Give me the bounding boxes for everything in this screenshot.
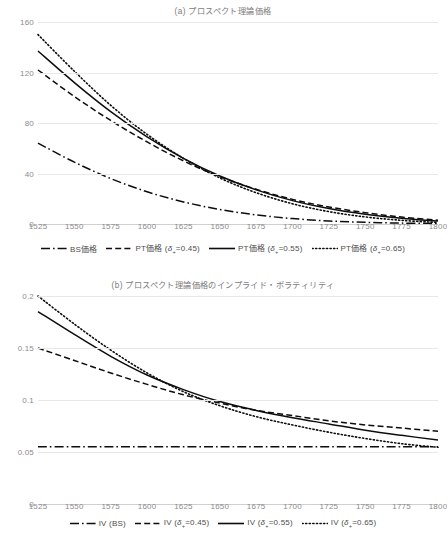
chart-a-plot: 04080120160 1525155015751600162516501675…	[0, 18, 446, 224]
gridline	[38, 296, 438, 297]
series-line	[38, 35, 438, 223]
x-tick-label: 1625	[174, 222, 193, 231]
legend-swatch-dashdot	[41, 244, 67, 253]
legend-item[interactable]: IV (δ+=0.65)	[302, 518, 376, 529]
legend-swatch-dashed	[106, 244, 132, 253]
y-tick-label: 0.2	[22, 292, 34, 301]
series-line	[38, 51, 438, 221]
x-tick-label: 1550	[65, 222, 84, 231]
x-tick-label: 1675	[247, 502, 266, 511]
x-tick-label: 1550	[65, 502, 84, 511]
chart-a-x-axis: 1525155015751600162516501675170017251750…	[38, 222, 438, 236]
legend-label: PT価格 (δ+=0.45)	[135, 242, 200, 255]
legend-swatch-dotted	[302, 519, 328, 528]
x-tick-label: 1575	[101, 222, 120, 231]
gridline	[38, 123, 438, 124]
x-tick-label: 1775	[392, 502, 411, 511]
legend-item[interactable]: IV (δ+=0.55)	[218, 518, 292, 529]
gridline	[38, 174, 438, 175]
y-tick-label: 40	[25, 169, 34, 178]
y-tick-label: 160	[20, 18, 34, 27]
chart-b-x-axis: 1525155015751600162516501675170017251750…	[38, 502, 438, 516]
chart-b-legend: IV (BS)IV (δ+=0.45)IV (δ+=0.55)IV (δ+=0.…	[0, 518, 446, 529]
legend-item[interactable]: PT価格 (δ+=0.55)	[209, 242, 303, 255]
legend-item[interactable]: BS価格	[41, 243, 97, 254]
gridline	[38, 73, 438, 74]
legend-label: IV (δ+=0.55)	[247, 518, 292, 529]
chart-b-plot-area	[38, 296, 438, 504]
legend-swatch-solid	[218, 519, 244, 528]
chart-a-y-axis: 04080120160	[0, 18, 34, 224]
x-tick-label: 1725	[320, 222, 339, 231]
x-tick-label: 1800	[429, 502, 447, 511]
gridline	[38, 400, 438, 401]
chart-a-legend: BS価格PT価格 (δ+=0.45)PT価格 (δ+=0.55)PT価格 (δ+…	[0, 242, 446, 255]
x-tick-label: 1575	[101, 502, 120, 511]
y-tick-label: 120	[20, 68, 34, 77]
x-tick-label: 1800	[429, 222, 447, 231]
legend-item[interactable]: IV (BS)	[70, 519, 126, 528]
legend-swatch-solid	[209, 244, 235, 253]
x-tick-label: 1600	[138, 502, 157, 511]
series-line	[38, 70, 438, 220]
x-tick-label: 1750	[356, 222, 375, 231]
legend-label: PT価格 (δ+=0.55)	[238, 242, 303, 255]
series-line	[38, 348, 438, 431]
x-tick-label: 1700	[283, 502, 302, 511]
chart-a-title: (a) プロスペクト理論価格	[0, 6, 446, 18]
legend-item[interactable]: PT価格 (δ+=0.65)	[312, 242, 406, 255]
x-tick-label: 1625	[174, 502, 193, 511]
x-tick-label: 1525	[29, 502, 48, 511]
y-tick-label: 0.05	[18, 448, 34, 457]
gridline	[38, 452, 438, 453]
chart-a-plot-area	[38, 22, 438, 224]
figure-a: (a) プロスペクト理論価格 04080120160 1525155015751…	[0, 0, 446, 270]
legend-swatch-dotted	[312, 244, 338, 253]
y-tick-label: 0.1	[22, 396, 34, 405]
legend-label: IV (δ+=0.65)	[331, 518, 376, 529]
x-tick-label: 1750	[356, 502, 375, 511]
x-tick-label: 1650	[211, 502, 230, 511]
x-tick-label: 1775	[392, 222, 411, 231]
legend-label: PT価格 (δ+=0.65)	[341, 242, 406, 255]
series-line	[38, 296, 438, 447]
chart-b-plot: 00.050.10.150.2 152515501575160016251650…	[0, 292, 446, 504]
gridline	[38, 348, 438, 349]
legend-item[interactable]: PT価格 (δ+=0.45)	[106, 242, 200, 255]
legend-label: BS価格	[70, 243, 97, 254]
y-tick-label: 80	[25, 119, 34, 128]
chart-b-title: (b) プロスペクト理論価格のインプライド・ボラティリティ	[0, 280, 446, 292]
x-tick-label: 1700	[283, 222, 302, 231]
x-tick-label: 1600	[138, 222, 157, 231]
series-line	[38, 312, 438, 440]
legend-swatch-dashed	[135, 519, 161, 528]
chart-b-y-axis: 00.050.10.150.2	[0, 292, 34, 504]
figure-b: (b) プロスペクト理論価格のインプライド・ボラティリティ 00.050.10.…	[0, 272, 446, 555]
x-tick-label: 1650	[211, 222, 230, 231]
y-tick-label: 0.15	[18, 344, 34, 353]
x-tick-label: 1675	[247, 222, 266, 231]
x-tick-label: 1525	[29, 222, 48, 231]
legend-item[interactable]: IV (δ+=0.45)	[135, 518, 209, 529]
legend-swatch-dashdot	[70, 519, 96, 528]
legend-label: IV (BS)	[99, 519, 126, 528]
gridline	[38, 22, 438, 23]
legend-label: IV (δ+=0.45)	[164, 518, 209, 529]
x-tick-label: 1725	[320, 502, 339, 511]
